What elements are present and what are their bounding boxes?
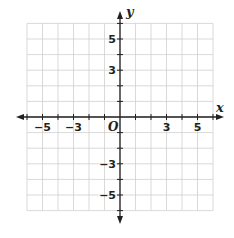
y-tick-label: 3	[108, 64, 116, 77]
x-axis-label: x	[215, 100, 224, 115]
y-axis-label: y	[125, 4, 135, 19]
y-axis-top-arrow-icon	[117, 11, 123, 19]
axes	[16, 11, 224, 224]
x-tick-label: −3	[65, 121, 82, 134]
y-tick-label: 5	[108, 33, 116, 46]
y-tick-label: −5	[99, 189, 116, 202]
x-axis-left-arrow-icon	[16, 114, 24, 120]
origin-label: O	[108, 120, 119, 134]
coordinate-plane: −5−33553−3−5 x y O	[0, 0, 234, 238]
x-tick-label: −5	[34, 121, 51, 134]
y-axis-bottom-arrow-icon	[117, 216, 123, 224]
y-tick-label: −3	[99, 158, 116, 171]
x-tick-label: 3	[163, 121, 171, 134]
x-tick-label: 5	[194, 121, 202, 134]
